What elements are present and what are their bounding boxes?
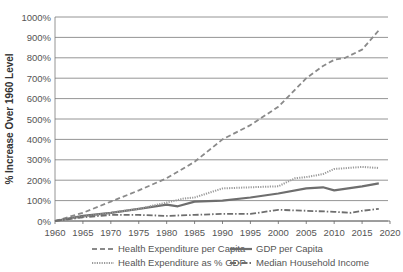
legend-label: Health Expenditure per Capita: [118, 243, 246, 254]
y-tick-label: 1000%: [21, 12, 51, 23]
x-tick-label: 2000: [268, 227, 289, 238]
x-axis: 1960196519701975198019851990199520002005…: [44, 221, 400, 238]
y-axis-label: % Increase Over 1960 Level: [4, 53, 15, 184]
y-tick-label: 600%: [27, 93, 52, 104]
y-tick-label: 500%: [27, 114, 52, 125]
y-tick-label: 700%: [27, 73, 52, 84]
x-tick-label: 1965: [72, 227, 93, 238]
x-tick-label: 1995: [240, 227, 261, 238]
legend-label: Median Household Income: [256, 257, 369, 268]
y-axis-ticks: 0%100%200%300%400%500%600%700%800%900%10…: [21, 12, 51, 227]
x-tick-label: 2010: [324, 227, 345, 238]
x-tick-label: 1970: [100, 227, 121, 238]
x-tick-label: 2020: [379, 227, 400, 238]
x-tick-label: 1960: [44, 227, 65, 238]
legend: Health Expenditure per CapitaGDP per Cap…: [92, 243, 369, 268]
y-tick-label: 100%: [27, 195, 52, 206]
x-tick-label: 1975: [128, 227, 149, 238]
y-tick-label: 300%: [27, 154, 52, 165]
x-tick-label: 2015: [352, 227, 373, 238]
legend-label: GDP per Capita: [256, 243, 324, 254]
y-tick-label: 900%: [27, 32, 52, 43]
x-tick-label: 2005: [296, 227, 317, 238]
series-median-household-income: [55, 209, 379, 221]
series-health-expenditure-per-capita: [55, 30, 379, 221]
x-tick-label: 1990: [212, 227, 233, 238]
x-tick-label: 1985: [184, 227, 205, 238]
y-tick-label: 800%: [27, 52, 52, 63]
y-tick-label: 400%: [27, 134, 52, 145]
y-tick-label: 200%: [27, 175, 52, 186]
legend-label: Health Expenditure as % GDP: [118, 257, 246, 268]
line-chart: 0%100%200%300%400%500%600%700%800%900%10…: [0, 0, 403, 272]
series-lines: [55, 30, 379, 221]
y-tick-label: 0%: [37, 216, 51, 227]
x-tick-label: 1980: [156, 227, 177, 238]
